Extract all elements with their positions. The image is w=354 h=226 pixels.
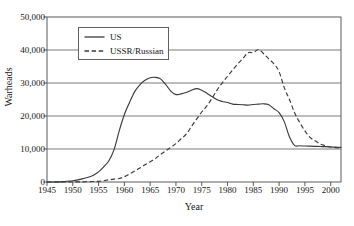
x-tick-label: 2000	[311, 185, 351, 196]
y-tick-label: 50,000	[1, 13, 45, 22]
legend-label-us: US	[110, 32, 122, 42]
y-axis-title: Warheads	[3, 57, 15, 117]
legend-label-ussr-russian: USSR/Russian	[110, 46, 164, 56]
legend-line-sample-solid-icon	[84, 33, 105, 41]
chart-legend: US USSR/Russian	[78, 27, 169, 60]
x-axis-tick-labels: 1945195019551960196519701975198019851990…	[0, 185, 354, 199]
legend-item-ussr-russian: USSR/Russian	[79, 44, 168, 58]
y-tick-label: 40,000	[1, 46, 45, 55]
y-tick-label: 10,000	[1, 145, 45, 154]
legend-line-sample-dashed-icon	[84, 47, 105, 55]
legend-item-us: US	[79, 30, 168, 44]
warheads-line-chart: 010,00020,00030,00040,00050,000 19451950…	[0, 0, 354, 226]
x-axis-title: Year	[47, 201, 341, 213]
